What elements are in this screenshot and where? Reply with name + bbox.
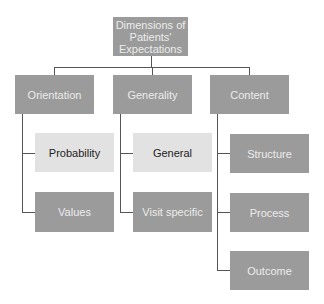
generality-children-trunk <box>120 114 121 212</box>
node-generality: Generality <box>113 75 192 114</box>
node-outcome: Outcome <box>230 251 309 290</box>
node-general: General <box>133 133 212 172</box>
root-connector-vertical <box>151 56 152 67</box>
visit-specific-branch <box>120 212 133 213</box>
general-branch <box>120 153 133 154</box>
outcome-branch <box>217 270 230 271</box>
orientation-connector <box>54 67 55 75</box>
root-line-2: Patients' <box>130 31 172 43</box>
content-children-trunk <box>217 114 218 271</box>
generality-connector <box>152 67 153 75</box>
node-orientation: Orientation <box>15 75 94 114</box>
node-content: Content <box>210 75 289 114</box>
node-values: Values <box>35 192 114 232</box>
root-line-1: Dimensions of <box>116 19 186 31</box>
values-branch <box>22 212 35 213</box>
probability-branch <box>22 153 35 154</box>
process-branch <box>217 212 230 213</box>
node-probability: Probability <box>35 133 114 172</box>
node-structure: Structure <box>230 134 309 173</box>
orientation-children-trunk <box>22 114 23 212</box>
node-visit-specific: Visit specific <box>133 192 212 232</box>
node-process: Process <box>230 193 309 232</box>
content-connector <box>249 67 250 75</box>
root-node: Dimensions of Patients' Expectations <box>113 17 188 56</box>
root-line-3: Expectations <box>119 43 182 55</box>
structure-branch <box>217 153 230 154</box>
